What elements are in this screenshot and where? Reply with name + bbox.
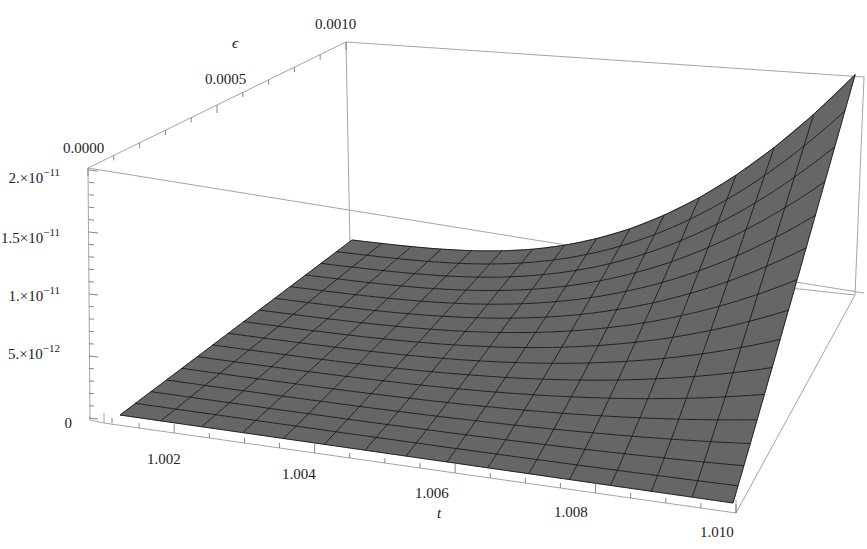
surface-plot: 1.0021.0041.0061.0081.0100.00000.00050.0… (0, 0, 867, 549)
y-axis-label: ϵ (232, 35, 239, 51)
x-tick-label: 1.010 (700, 524, 734, 540)
z-tick-label: 1.5×10−11 (1, 226, 60, 246)
x-axis-label: t (437, 505, 442, 521)
surface-mesh (120, 75, 855, 504)
y-tick-label: 0.0000 (63, 140, 104, 156)
x-tick-label: 1.006 (415, 485, 449, 501)
x-tick-label: 1.002 (147, 451, 181, 467)
x-tick-label: 1.004 (282, 466, 316, 482)
y-tick-label: 0.0005 (205, 71, 246, 87)
y-tick-label: 0.0010 (315, 16, 356, 32)
z-tick-label: 2.×10−11 (8, 166, 60, 186)
z-tick-label: 1.×10−11 (8, 284, 60, 304)
z-tick-label: 5.×10−12 (8, 342, 60, 362)
x-tick-label: 1.008 (554, 504, 588, 520)
z-tick-label: 0 (65, 415, 73, 431)
